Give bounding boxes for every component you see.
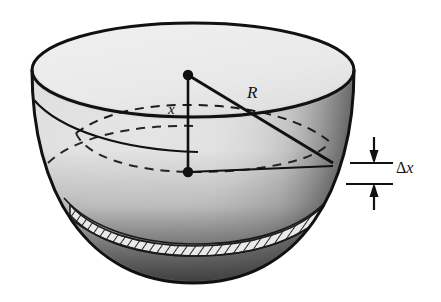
bowl-diagram <box>0 0 441 302</box>
section-center-dot <box>183 167 193 177</box>
label-delta-x: Δx <box>396 160 413 176</box>
delta-x-variable: x <box>406 159 413 176</box>
label-depth-x: x <box>168 102 175 117</box>
sphere-center-dot <box>183 70 193 80</box>
label-radius-R: R <box>247 84 257 101</box>
delta-x-dimension <box>346 137 393 210</box>
dimension-arrow-lower-head <box>370 183 379 197</box>
delta-symbol: Δ <box>396 159 406 176</box>
